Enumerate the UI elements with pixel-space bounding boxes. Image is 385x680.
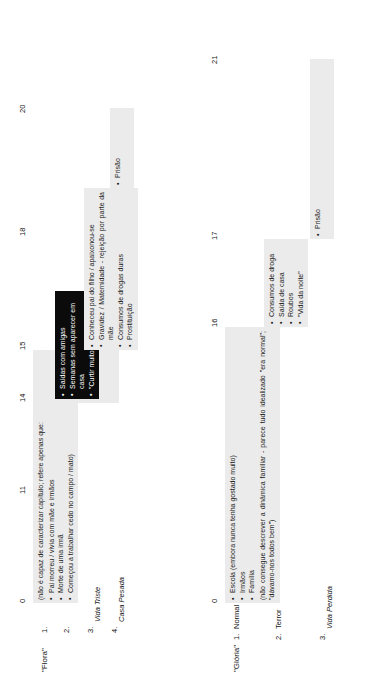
list-item: Saída de casa xyxy=(277,243,287,324)
axis-tick-gloria-0: 0 xyxy=(210,599,219,603)
rotated-page-wrapper: "Flora" 0 11 14 15 18 20 1. 2. 3. Vida T… xyxy=(0,0,385,680)
box-list: Escola (embora nunca tenha gostado muito… xyxy=(228,331,257,600)
list-item: Morte de uma irmã xyxy=(56,407,66,600)
box-lead: (não é capaz de caracterizar capítulo; r… xyxy=(36,407,46,600)
phase-num-gloria-1: 1. xyxy=(232,634,241,640)
timeline-canvas: "Flora" 0 11 14 15 18 20 1. 2. 3. Vida T… xyxy=(0,0,385,680)
list-item: Escola (embora nunca tenha gostado muito… xyxy=(228,331,238,600)
box-tail: (não consegue descrever a dinâmica famil… xyxy=(258,331,277,600)
axis-tick-flora-11: 11 xyxy=(18,486,27,494)
phase-num-gloria-3: 3. xyxy=(318,634,327,640)
axis-tick-gloria-17: 17 xyxy=(210,231,219,240)
axis-tick-flora-14: 14 xyxy=(18,393,27,402)
list-item: Gravidez / Maternidade - rejeição por pa… xyxy=(97,192,116,347)
box-list: Consumos de droga Saída de casa Roubos "… xyxy=(267,243,305,324)
list-item: Prisão xyxy=(113,112,123,185)
phase-label-flora-4: Casa Pesada xyxy=(117,577,126,622)
phase-num-flora-3: 3. xyxy=(86,627,95,633)
phase-label-gloria-3: Vida Perdida xyxy=(325,586,334,629)
axis-tick-flora-15: 15 xyxy=(18,341,27,350)
box-list: Conheceu pai do filho / apaixonou-se Gra… xyxy=(87,192,135,347)
content-box-flora-1: (não é capaz de caracterizar capítulo; r… xyxy=(33,403,78,603)
phase-label-gloria-2: Terror xyxy=(274,609,283,629)
list-item: Irmãos xyxy=(238,331,248,600)
content-box-gloria-2: Consumos de droga Saída de casa Roubos "… xyxy=(264,239,308,327)
content-box-gloria-1: Escola (embora nunca tenha gostado muito… xyxy=(225,327,280,603)
phase-num-flora-1: 1. xyxy=(40,627,49,633)
box-list: Prisão xyxy=(313,63,323,236)
list-item: "Vida da noite" xyxy=(296,243,306,324)
axis-tick-gloria-16: 16 xyxy=(210,318,219,327)
box-list: Prisão xyxy=(113,112,123,185)
list-item: Saídas com amigas xyxy=(58,295,68,396)
axis-tick-flora-0: 0 xyxy=(18,599,27,603)
list-item: Pai morreu / vivia com mãe e irmãos xyxy=(47,407,57,600)
case-name-gloria: "Glória" xyxy=(232,645,241,672)
content-box-flora-3: Conheceu pai do filho / apaixonou-se Gra… xyxy=(84,188,138,350)
phase-label-gloria-1: Normal xyxy=(232,605,241,629)
content-box-flora-4: Prisão xyxy=(110,108,134,188)
box-list: Pai morreu / vivia com mãe e irmãos Mort… xyxy=(47,407,76,600)
list-item: Começou a trabalhar cedo no campo / mato… xyxy=(66,407,76,600)
axis-tick-gloria-21: 21 xyxy=(210,55,219,64)
list-item: Consumos de drogas duras xyxy=(116,192,126,347)
list-item: Prisão xyxy=(313,63,323,236)
list-item: Consumos de droga xyxy=(267,243,277,324)
content-box-gloria-3: Prisão xyxy=(310,59,334,239)
list-item: Família xyxy=(247,331,257,600)
list-item: Roubos xyxy=(286,243,296,324)
case-name-flora: "Flora" xyxy=(40,648,49,672)
phase-num-gloria-2: 2. xyxy=(274,634,283,640)
axis-tick-flora-20: 20 xyxy=(18,104,27,113)
phase-label-flora-3: Vida Triste xyxy=(93,587,102,622)
list-item: Conheceu pai do filho / apaixonou-se xyxy=(87,192,97,347)
phase-num-flora-4: 4. xyxy=(110,627,119,633)
phase-num-flora-2: 2. xyxy=(62,627,71,633)
axis-tick-flora-18: 18 xyxy=(18,227,27,236)
list-item: Prostituição xyxy=(125,192,135,347)
